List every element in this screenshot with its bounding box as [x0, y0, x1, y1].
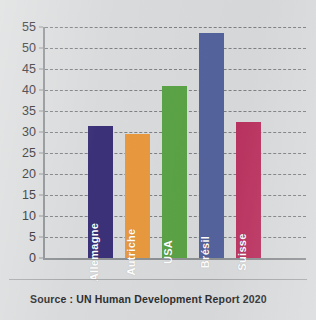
bar-label: Suisse	[236, 233, 248, 270]
plot-area: 0510152025303540455055 AllemagneAutriche…	[43, 27, 306, 260]
gridline	[45, 27, 306, 28]
y-axis-tick-mark	[39, 132, 43, 133]
bar-label: USA	[162, 240, 174, 264]
y-axis-tick-mark	[39, 195, 43, 196]
y-axis-tick-label: 20	[22, 167, 36, 181]
bar: Suisse	[236, 122, 261, 258]
gridline	[45, 69, 306, 70]
y-axis-tick-label: 35	[22, 104, 36, 118]
y-axis-tick-mark	[39, 111, 43, 112]
x-axis-line	[43, 258, 306, 260]
y-axis-tick-label: 45	[22, 62, 36, 76]
bottom-divider	[9, 279, 307, 280]
y-axis-tick-mark	[39, 27, 43, 28]
y-axis-tick-mark	[39, 153, 43, 154]
y-axis-tick-mark	[39, 69, 43, 70]
y-axis-tick-mark	[39, 90, 43, 91]
bar-label: Autriche	[125, 228, 137, 275]
y-axis-tick-mark	[39, 48, 43, 49]
gridline	[45, 48, 306, 49]
bar-label: Allemagne	[88, 223, 100, 281]
y-axis-tick-mark	[39, 258, 43, 259]
y-axis-tick-label: 30	[22, 125, 36, 139]
y-axis-tick-label: 50	[22, 41, 36, 55]
source-caption: Source : UN Human Development Report 202…	[30, 293, 267, 305]
y-axis-tick-label: 40	[22, 83, 36, 97]
y-axis-tick-label: 15	[22, 188, 36, 202]
bar: Brésil	[199, 33, 224, 258]
y-axis-line	[43, 27, 45, 260]
y-axis-tick-label: 5	[29, 230, 36, 244]
bar: Allemagne	[88, 126, 113, 258]
chart-page: 0510152025303540455055 AllemagneAutriche…	[0, 0, 316, 320]
bar: Autriche	[125, 134, 150, 258]
y-axis-tick-mark	[39, 174, 43, 175]
cut-off-title	[0, 0, 316, 7]
y-axis-tick-label: 55	[22, 20, 36, 34]
bar: USA	[162, 86, 187, 258]
y-axis-tick-label: 10	[22, 209, 36, 223]
y-axis-tick-mark	[39, 216, 43, 217]
bar-label: Brésil	[199, 236, 211, 268]
y-axis-tick-label: 0	[29, 251, 36, 265]
y-axis-tick-label: 25	[22, 146, 36, 160]
y-axis-tick-mark	[39, 237, 43, 238]
